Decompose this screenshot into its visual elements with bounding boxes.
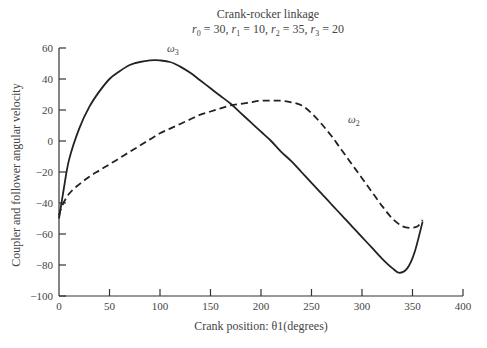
omega3-label: ω3	[167, 42, 179, 57]
chart: Crank-rocker linkage r0 = 30, r1 = 10, r…	[0, 0, 487, 348]
x-tick-label: 150	[202, 300, 219, 312]
x-axis-label: Crank position: θ1(degrees)	[194, 319, 328, 333]
omega2-line	[59, 101, 423, 228]
series-lines	[59, 60, 423, 273]
y-tick-label: 20	[42, 104, 54, 116]
title: Crank-rocker linkage	[217, 7, 319, 21]
axes	[59, 48, 463, 296]
y-tick-label: 0	[48, 135, 54, 147]
y-tick-label: −60	[36, 228, 54, 240]
chart-title: Crank-rocker linkage r0 = 30, r1 = 10, r…	[192, 7, 344, 38]
x-tick-label: 300	[354, 300, 371, 312]
x-tick-label: 250	[303, 300, 320, 312]
x-tick-label: 400	[455, 300, 472, 312]
omega3-line	[59, 60, 423, 273]
x-tick-label: 50	[104, 300, 116, 312]
y-tick-label: −40	[36, 197, 54, 209]
omega2-label: ω2	[348, 113, 360, 128]
x-tick-label: 350	[404, 300, 421, 312]
subtitle: r0 = 30, r1 = 10, r2 = 35, r3 = 20	[192, 22, 344, 38]
y-axis-label: Coupler and follower angular velocity	[9, 83, 23, 266]
x-tick-label: 200	[253, 300, 270, 312]
y-tick-label: −20	[36, 166, 54, 178]
tick-labels: 6040200−20−40−60−80−10005010015020025030…	[30, 42, 471, 312]
y-tick-label: 40	[42, 73, 54, 85]
x-tick-label: 100	[152, 300, 169, 312]
y-tick-label: −100	[30, 290, 53, 302]
y-tick-label: −80	[36, 259, 54, 271]
x-tick-label: 0	[56, 300, 62, 312]
y-tick-label: 60	[42, 42, 54, 54]
